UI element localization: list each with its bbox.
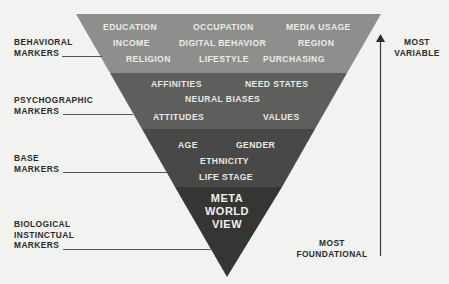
label-behavioral-markers: BEHAVIORAL MARKERS <box>14 37 73 58</box>
item-values: VALUES <box>263 113 300 122</box>
item-attitudes: ATTITUDES <box>153 113 204 122</box>
item-media-usage: MEDIA USAGE <box>286 23 351 32</box>
item-income: INCOME <box>113 39 150 48</box>
item-life-stage: LIFE STAGE <box>199 173 253 182</box>
label-base-markers: BASE MARKERS <box>14 153 59 174</box>
item-religion: RELIGION <box>126 55 171 64</box>
axis-arrowhead-icon <box>376 34 385 42</box>
label-most-variable: MOST VARIABLE <box>389 37 445 58</box>
item-affinities: AFFINITIES <box>151 80 202 89</box>
item-purchasing: PURCHASING <box>263 55 325 64</box>
item-age: AGE <box>178 141 198 150</box>
marker-pyramid-diagram: BEHAVIORAL MARKERS PSYCHOGRAPHIC MARKERS… <box>0 0 449 284</box>
item-gender: GENDER <box>236 141 275 150</box>
item-ethnicity: ETHNICITY <box>200 157 249 166</box>
label-biological-markers: BIOLOGICAL INSTINCTUAL MARKERS <box>14 219 74 251</box>
label-most-foundational: MOST FOUNDATIONAL <box>292 238 372 259</box>
item-region: REGION <box>298 39 334 48</box>
core-meta-world-view: META WORLD VIEW <box>197 192 257 231</box>
leader-base <box>63 172 167 173</box>
label-psychographic-markers: PSYCHOGRAPHIC MARKERS <box>14 95 93 116</box>
item-digital-behavior: DIGITAL BEHAVIOR <box>179 39 266 48</box>
item-neural-biases: NEURAL BIASES <box>185 95 260 104</box>
item-need-states: NEED STATES <box>245 80 308 89</box>
leader-biological <box>63 249 213 250</box>
item-occupation: OCCUPATION <box>193 23 254 32</box>
item-education: EDUCATION <box>103 23 157 32</box>
item-lifestyle: LIFESTYLE <box>199 55 249 64</box>
